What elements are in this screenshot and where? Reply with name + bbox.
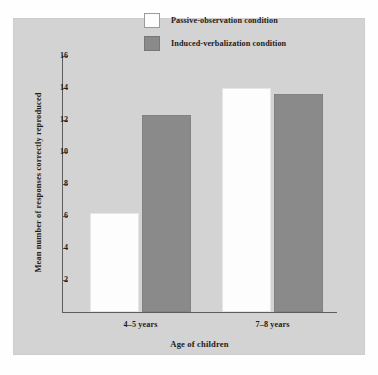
bar-passive-observation-group-1 xyxy=(90,213,139,312)
x-axis-title: Age of children xyxy=(62,339,337,349)
bar-induced-verbalization-group-2 xyxy=(274,94,323,312)
x-category-label-1: 4–5 years xyxy=(96,320,186,329)
bars-layer xyxy=(0,0,378,313)
figure-canvas: Passive-observation condition Induced-ve… xyxy=(0,0,378,375)
x-category-label-2: 7–8 years xyxy=(228,320,318,329)
bar-induced-verbalization-group-1 xyxy=(142,115,191,312)
bar-passive-observation-group-2 xyxy=(222,88,271,312)
plot-area: 246810121416 Mean number of responses co… xyxy=(0,0,378,375)
